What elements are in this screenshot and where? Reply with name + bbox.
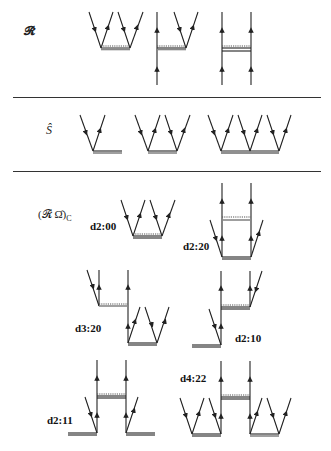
s-diagram-1	[80, 115, 122, 153]
s-diagram-2	[135, 115, 190, 153]
diagram-d3-20	[87, 270, 169, 345]
diagram-d2-11	[68, 360, 155, 435]
r-diagram-2	[157, 12, 198, 85]
diagram-d4-22	[180, 361, 291, 436]
r-diagram-3	[222, 12, 251, 85]
diagram-d2-00	[121, 200, 175, 238]
s-diagram-3	[208, 115, 291, 153]
r-diagram-1	[89, 12, 143, 50]
feynman-diagrams-canvas	[0, 0, 331, 451]
diagram-d2-20	[210, 183, 263, 259]
diagram-d2-10	[192, 271, 262, 347]
